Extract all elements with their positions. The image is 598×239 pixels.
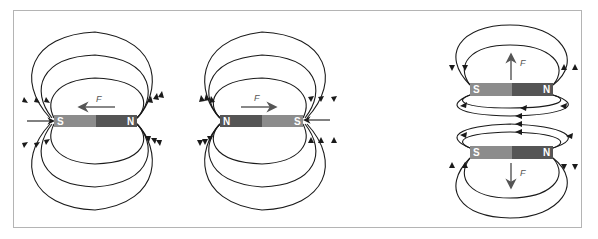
pole-label-left: N [223, 116, 230, 127]
arrowhead-icon [151, 138, 157, 144]
force-label: F [254, 93, 260, 103]
panel-right: S N S N F F [449, 25, 578, 218]
arrowhead-icon [515, 121, 522, 127]
field-lines-right [456, 25, 568, 218]
arrowhead-icon [460, 102, 467, 108]
pole-label-right: N [127, 116, 134, 127]
field-line [213, 124, 306, 164]
arrowhead-icon [44, 139, 50, 145]
arrowhead-icon [22, 97, 28, 103]
field-line [213, 78, 306, 118]
panel-left: S N F [22, 32, 164, 210]
field-line [205, 124, 326, 210]
arrowhead-icon [560, 103, 567, 109]
arrowhead-icon [158, 91, 164, 98]
arrowhead-icon [44, 97, 50, 103]
field-line [205, 32, 326, 118]
arrowhead-icon [331, 137, 337, 143]
arrowhead-icon [515, 129, 522, 135]
magnet-right-bottom: S N [470, 146, 553, 159]
force-label: F [520, 168, 526, 178]
pole-label-right: N [543, 84, 550, 95]
arrowhead-icon [449, 65, 455, 71]
force-label: F [520, 58, 526, 68]
arrowhead-icon [572, 64, 578, 70]
arrowhead-icon [156, 140, 162, 146]
arrowhead-icon [515, 113, 522, 119]
field-line [51, 124, 144, 164]
arrowhead-icon [449, 162, 455, 168]
field-line [32, 32, 153, 118]
field-line [463, 132, 561, 148]
pole-label-left: S [57, 116, 64, 127]
arrowhead-icon [331, 96, 337, 102]
arrowhead-icon [520, 105, 527, 111]
field-line [463, 95, 561, 108]
magnet-diagram: S N F [0, 0, 598, 239]
arrowhead-icon [153, 93, 159, 100]
arrowhead-icon [197, 140, 203, 146]
arrowhead-icon [22, 142, 28, 148]
pole-label-right: N [543, 147, 550, 158]
magnet-middle: N S [220, 115, 303, 127]
field-line [32, 124, 153, 210]
pole-label-right: S [294, 116, 301, 127]
pole-label-left: S [473, 147, 480, 158]
magnet-right-top: S N [470, 83, 553, 96]
arrowhead-icon [34, 97, 40, 103]
force-label: F [96, 94, 102, 104]
arrowhead-icon [572, 164, 578, 170]
arrowhead-icon [462, 65, 468, 71]
magnet-left: S N [54, 115, 137, 127]
panel-middle: N S F [197, 32, 337, 210]
arrowhead-icon [308, 96, 314, 102]
arrowhead-icon [566, 133, 573, 139]
pole-label-left: S [473, 84, 480, 95]
